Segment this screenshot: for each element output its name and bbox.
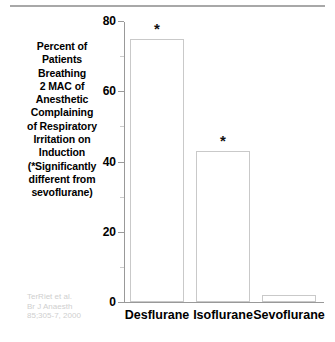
caption-line: Breathing bbox=[8, 67, 116, 80]
bar bbox=[196, 151, 250, 302]
caption-line: (*Significantly bbox=[8, 160, 116, 173]
citation-line: Br J Anaesth bbox=[27, 302, 117, 312]
y-tick-major bbox=[118, 232, 124, 233]
y-tick-label: 60 bbox=[103, 85, 116, 97]
y-tick-major bbox=[118, 162, 124, 163]
caption-line: Patients bbox=[8, 53, 116, 66]
citation-text: TerRiet et al.Br J Anaesth85;305-7, 2000 bbox=[27, 292, 117, 321]
y-axis-line bbox=[124, 22, 125, 303]
y-tick-major bbox=[118, 21, 124, 22]
y-tick-label: 80 bbox=[103, 15, 116, 27]
y-tick-label: 40 bbox=[103, 156, 116, 168]
caption-line: Irritation on bbox=[8, 133, 116, 146]
category-label: Sevoflurane bbox=[253, 309, 325, 322]
y-tick-label: 0 bbox=[109, 296, 116, 308]
y-tick-major bbox=[118, 91, 124, 92]
top-divider-rule bbox=[10, 5, 325, 7]
x-axis-baseline bbox=[124, 302, 324, 303]
caption-line: Anesthetic bbox=[8, 93, 116, 106]
y-tick-label: 20 bbox=[103, 226, 116, 238]
y-tick-major bbox=[118, 302, 124, 303]
plot-area: 020406080 ** DesfluraneIsofluraneSevoflu… bbox=[124, 22, 324, 303]
caption-line: Induction bbox=[8, 146, 116, 159]
caption-line: 2 MAC of bbox=[8, 80, 116, 93]
citation-line: 85;305-7, 2000 bbox=[27, 311, 117, 321]
caption-line: of Respiratory bbox=[8, 120, 116, 133]
bar bbox=[262, 295, 316, 302]
y-tick-minor bbox=[120, 197, 124, 198]
y-tick-minor bbox=[120, 126, 124, 127]
category-label: Isoflurane bbox=[193, 309, 253, 322]
significance-asterisk: * bbox=[154, 21, 160, 36]
y-tick-minor bbox=[120, 267, 124, 268]
caption-line: Percent of bbox=[8, 40, 116, 53]
category-label: Desflurane bbox=[125, 309, 190, 322]
y-tick-minor bbox=[120, 56, 124, 57]
caption-line: different from bbox=[8, 173, 116, 186]
chart-caption-text: Percent ofPatientsBreathing2 MAC ofAnest… bbox=[8, 40, 116, 200]
citation-line: TerRiet et al. bbox=[27, 292, 117, 302]
caption-line: Complaining bbox=[8, 106, 116, 119]
caption-line: sevoflurane) bbox=[8, 186, 116, 199]
chart-figure: Percent ofPatientsBreathing2 MAC ofAnest… bbox=[0, 0, 335, 342]
bar bbox=[130, 39, 184, 302]
significance-asterisk: * bbox=[220, 133, 226, 148]
